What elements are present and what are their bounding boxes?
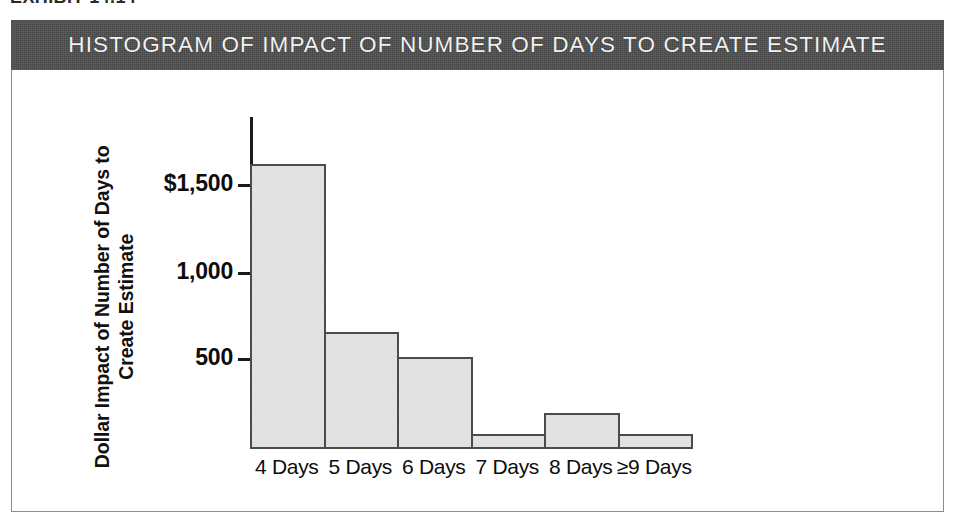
chart-title-bar: HISTOGRAM OF IMPACT OF NUMBER OF DAYS TO… bbox=[11, 20, 944, 70]
exhibit-label: EXHIBIT 14.14 bbox=[10, 0, 136, 8]
chart-title: HISTOGRAM OF IMPACT OF NUMBER OF DAYS TO… bbox=[68, 32, 886, 58]
exhibit-frame bbox=[11, 20, 944, 512]
